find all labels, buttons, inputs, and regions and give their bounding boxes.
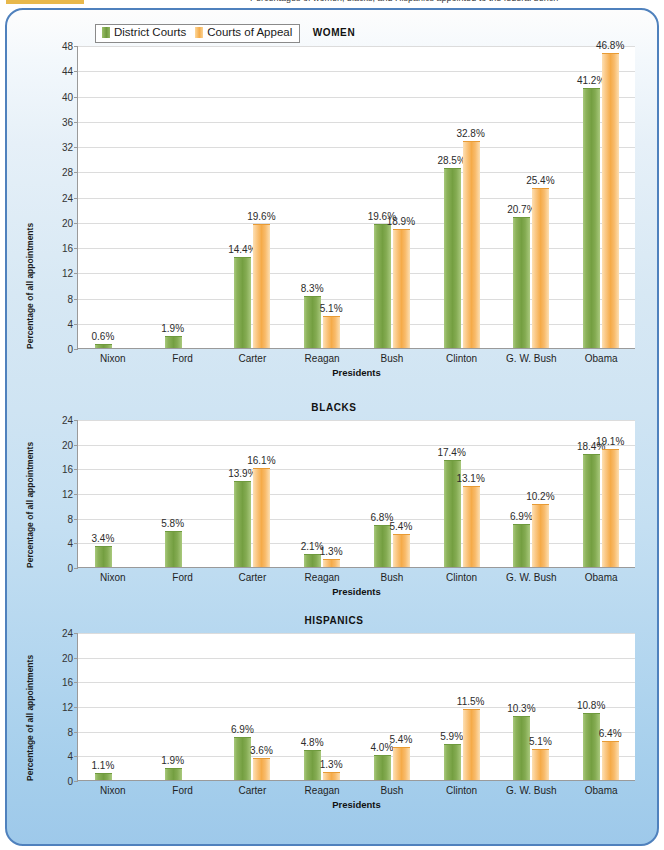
gridline bbox=[78, 732, 635, 733]
bar-bush-district-courts bbox=[374, 525, 391, 567]
x-axis-tick-clinton: Clinton bbox=[446, 785, 477, 796]
y-axis-tick-label: 28 bbox=[62, 167, 73, 178]
y-axis-tick-mark bbox=[74, 97, 78, 98]
y-axis-tick-label: 8 bbox=[67, 726, 73, 737]
y-axis-tick-mark bbox=[74, 223, 78, 224]
y-axis-tick-mark bbox=[74, 658, 78, 659]
bar-value-label: 1.1% bbox=[91, 760, 114, 771]
bar-value-label: 13.9% bbox=[228, 468, 256, 479]
bar-value-label: 5.8% bbox=[161, 518, 184, 529]
bar-g-w-bush-district-courts bbox=[513, 716, 530, 780]
x-axis-tick-clinton: Clinton bbox=[446, 353, 477, 364]
caption-highlight bbox=[6, 0, 84, 4]
bar-g-w-bush-courts-of-appeal bbox=[532, 188, 549, 348]
bar-obama-courts-of-appeal bbox=[602, 741, 619, 780]
gridline bbox=[78, 633, 635, 634]
bar-g-w-bush-district-courts bbox=[513, 524, 530, 567]
bar-value-label: 6.9% bbox=[231, 724, 254, 735]
y-axis-tick-label: 12 bbox=[62, 268, 73, 279]
bar-group-reagan: 4.8%1.3% bbox=[304, 633, 340, 780]
bar-group-carter: 6.9%3.6% bbox=[234, 633, 270, 780]
x-axis-tick-obama: Obama bbox=[585, 572, 618, 583]
y-axis-title-blacks: Percentage of all appointments bbox=[25, 442, 35, 568]
bar-group-nixon: 0.6% bbox=[95, 46, 131, 348]
bar-bush-courts-of-appeal bbox=[393, 747, 410, 780]
gridline bbox=[78, 273, 635, 274]
bar-value-label: 5.9% bbox=[440, 731, 463, 742]
gridline bbox=[78, 122, 635, 123]
bar-value-label: 10.3% bbox=[507, 703, 535, 714]
bar-ford-district-courts bbox=[165, 531, 182, 567]
y-axis-tick-label: 4 bbox=[67, 751, 73, 762]
bar-group-reagan: 2.1%1.3% bbox=[304, 420, 340, 567]
bar-value-label: 18.9% bbox=[387, 216, 415, 227]
bar-group-obama: 18.4%19.1% bbox=[583, 420, 619, 567]
bar-value-label: 10.2% bbox=[526, 491, 554, 502]
bar-group-clinton: 5.9%11.5% bbox=[444, 633, 480, 780]
bar-reagan-courts-of-appeal bbox=[323, 316, 340, 348]
bar-reagan-courts-of-appeal bbox=[323, 559, 340, 567]
bar-carter-district-courts bbox=[234, 257, 251, 348]
chart-title-women: WOMEN bbox=[7, 27, 659, 38]
y-axis-tick-label: 4 bbox=[67, 538, 73, 549]
bar-group-reagan: 8.3%5.1% bbox=[304, 46, 340, 348]
x-axis-tick-obama: Obama bbox=[585, 785, 618, 796]
bar-bush-district-courts bbox=[374, 755, 391, 780]
bar-clinton-courts-of-appeal bbox=[463, 141, 480, 348]
y-axis-tick-label: 32 bbox=[62, 142, 73, 153]
x-axis-tick-ford: Ford bbox=[172, 572, 193, 583]
bar-group-bush: 4.0%5.4% bbox=[374, 633, 410, 780]
bar-group-bush: 19.6%18.9% bbox=[374, 46, 410, 348]
x-axis-tick-obama: Obama bbox=[585, 353, 618, 364]
y-axis-tick-mark bbox=[74, 122, 78, 123]
chart-panel-blacks: BLACKSPercentage of all appointments0481… bbox=[7, 402, 659, 614]
bar-g-w-bush-district-courts bbox=[513, 217, 530, 348]
chart-panel-women: WOMENPercentage of all appointments04812… bbox=[7, 16, 659, 395]
bar-obama-district-courts bbox=[583, 454, 600, 567]
bar-ford-district-courts bbox=[165, 768, 182, 780]
bar-value-label: 20.7% bbox=[507, 204, 535, 215]
y-axis-tick-label: 8 bbox=[67, 293, 73, 304]
x-axis-tick-reagan: Reagan bbox=[305, 572, 340, 583]
bar-value-label: 32.8% bbox=[456, 128, 484, 139]
y-axis-tick-label: 0 bbox=[67, 563, 73, 574]
y-axis-tick-label: 44 bbox=[62, 66, 73, 77]
y-axis-tick-mark bbox=[74, 273, 78, 274]
y-axis-tick-mark bbox=[74, 633, 78, 634]
y-axis-tick-mark bbox=[74, 46, 78, 47]
y-axis-tick-label: 4 bbox=[67, 318, 73, 329]
x-axis-tick-g-w-bush: G. W. Bush bbox=[506, 353, 557, 364]
x-axis-title-women: Presidents bbox=[332, 367, 381, 378]
y-axis-tick-label: 0 bbox=[67, 344, 73, 355]
gridline bbox=[78, 223, 635, 224]
y-axis-tick-mark bbox=[74, 420, 78, 421]
bar-carter-district-courts bbox=[234, 737, 251, 780]
y-axis-tick-mark bbox=[74, 519, 78, 520]
bar-nixon-district-courts bbox=[95, 773, 112, 780]
y-axis-tick-mark bbox=[74, 445, 78, 446]
bar-reagan-courts-of-appeal bbox=[323, 772, 340, 780]
y-axis-tick-mark bbox=[74, 147, 78, 148]
bar-clinton-district-courts bbox=[444, 744, 461, 780]
bar-reagan-district-courts bbox=[304, 554, 321, 567]
bar-group-nixon: 3.4% bbox=[95, 420, 131, 567]
bar-value-label: 5.4% bbox=[389, 521, 412, 532]
bar-group-obama: 41.2%46.8% bbox=[583, 46, 619, 348]
bar-carter-courts-of-appeal bbox=[253, 468, 270, 567]
y-axis-title-women: Percentage of all appointments bbox=[25, 223, 35, 349]
bar-reagan-district-courts bbox=[304, 296, 321, 348]
gridline bbox=[78, 71, 635, 72]
gridline bbox=[78, 543, 635, 544]
x-axis-tick-g-w-bush: G. W. Bush bbox=[506, 572, 557, 583]
y-axis-tick-mark bbox=[74, 781, 78, 782]
y-axis-tick-mark bbox=[74, 494, 78, 495]
plot-area-hispanics: 048121620241.1%Nixon1.9%Ford6.9%3.6%Cart… bbox=[77, 633, 635, 781]
gridline bbox=[78, 707, 635, 708]
bar-value-label: 8.3% bbox=[301, 283, 324, 294]
bar-value-label: 5.1% bbox=[320, 303, 343, 314]
bar-value-label: 19.1% bbox=[596, 436, 624, 447]
bar-clinton-courts-of-appeal bbox=[463, 486, 480, 567]
bar-value-label: 5.4% bbox=[389, 734, 412, 745]
gridline bbox=[78, 198, 635, 199]
bar-g-w-bush-courts-of-appeal bbox=[532, 749, 549, 780]
